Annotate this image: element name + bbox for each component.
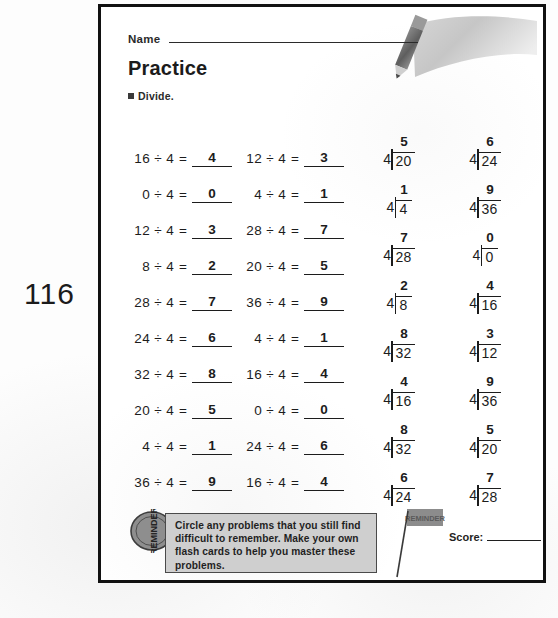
quotient-answer[interactable]: 9 (479, 375, 500, 389)
answer-blank[interactable]: 4 (192, 150, 232, 167)
divisor: 4 (472, 231, 480, 262)
dividend: 24 (391, 488, 414, 507)
worksheet-sheet: Name Practice Divide. 16 ÷ 4=40 ÷ 4=012 … (98, 4, 546, 583)
equals-sign: = (179, 331, 187, 346)
long-division-problem: 4936 (442, 375, 528, 423)
problem-column-1: 16 ÷ 4=40 ÷ 4=012 ÷ 4=38 ÷ 4=228 ÷ 4=724… (127, 140, 232, 500)
long-division-problem: 4416 (442, 279, 528, 327)
dividend: 16 (477, 296, 500, 315)
problem-expression: 36 ÷ 4 (246, 295, 286, 310)
pencil-banner-icon (391, 11, 539, 89)
problem-expression: 20 ÷ 4 (246, 259, 286, 274)
divisor: 4 (469, 471, 477, 502)
division-problem: 12 ÷ 4=3 (127, 212, 232, 248)
reminder-badge-text: REMINDER (149, 509, 159, 553)
flag-text: REMINDER (405, 514, 445, 523)
answer-blank[interactable]: 1 (304, 186, 344, 203)
quotient-answer[interactable]: 2 (397, 279, 412, 293)
answer-blank[interactable]: 0 (192, 186, 232, 203)
quotient-answer[interactable]: 6 (479, 135, 500, 149)
equals-sign: = (291, 367, 299, 382)
quotient-answer[interactable]: 3 (479, 327, 500, 341)
quotient-answer[interactable]: 5 (479, 423, 500, 437)
quotient-answer[interactable]: 5 (393, 135, 414, 149)
score-field-row[interactable]: Score: (449, 531, 541, 543)
answer-blank[interactable]: 0 (304, 402, 344, 419)
answer-blank[interactable]: 4 (304, 474, 344, 491)
long-division-problem: 4728 (356, 231, 442, 279)
problem-expression: 24 ÷ 4 (246, 439, 286, 454)
equals-sign: = (291, 259, 299, 274)
equals-sign: = (179, 475, 187, 490)
division-problem: 24 ÷ 4=6 (232, 428, 344, 464)
problem-expression: 36 ÷ 4 (134, 475, 174, 490)
dividend: 20 (477, 440, 500, 459)
quotient-answer[interactable]: 1 (397, 183, 412, 197)
answer-blank[interactable]: 5 (192, 402, 232, 419)
answer-blank[interactable]: 5 (304, 258, 344, 275)
dividend: 12 (477, 344, 500, 363)
equals-sign: = (179, 295, 187, 310)
quotient-answer[interactable]: 0 (483, 231, 498, 245)
score-write-line[interactable] (487, 540, 541, 541)
division-problem: 36 ÷ 4=9 (127, 464, 232, 500)
divisor: 4 (383, 423, 391, 454)
name-write-line[interactable] (169, 42, 418, 43)
division-problem: 16 ÷ 4=4 (232, 464, 344, 500)
quotient-answer[interactable]: 4 (393, 375, 414, 389)
divisor: 4 (383, 231, 391, 262)
name-field-row[interactable]: Name (128, 33, 418, 45)
divisor: 4 (383, 327, 391, 358)
problem-expression: 12 ÷ 4 (134, 223, 174, 238)
answer-blank[interactable]: 6 (192, 330, 232, 347)
score-label: Score: (449, 531, 483, 543)
long-division-problem: 400 (442, 231, 528, 279)
answer-blank[interactable]: 3 (304, 150, 344, 167)
equals-sign: = (291, 295, 299, 310)
division-problem: 4 ÷ 4=1 (232, 320, 344, 356)
reminder-flag-icon: REMINDER (391, 507, 445, 581)
answer-blank[interactable]: 8 (192, 366, 232, 383)
answer-blank[interactable]: 1 (192, 438, 232, 455)
page-number: 116 (24, 277, 75, 311)
equals-sign: = (291, 475, 299, 490)
answer-blank[interactable]: 7 (192, 294, 232, 311)
problem-column-2: 12 ÷ 4=34 ÷ 4=128 ÷ 4=720 ÷ 4=536 ÷ 4=94… (232, 140, 344, 500)
division-problem: 32 ÷ 4=8 (127, 356, 232, 392)
divisor: 4 (383, 471, 391, 502)
answer-blank[interactable]: 4 (304, 366, 344, 383)
quotient-answer[interactable]: 8 (393, 327, 414, 341)
divisor: 4 (386, 183, 394, 214)
answer-blank[interactable]: 1 (304, 330, 344, 347)
problem-expression: 4 ÷ 4 (254, 331, 286, 346)
long-division-problem: 4520 (356, 135, 442, 183)
problem-expression: 0 ÷ 4 (254, 403, 286, 418)
division-problem: 36 ÷ 4=9 (232, 284, 344, 320)
quotient-answer[interactable]: 7 (393, 231, 414, 245)
quotient-answer[interactable]: 6 (393, 471, 414, 485)
answer-blank[interactable]: 2 (192, 258, 232, 275)
quotient-answer[interactable]: 9 (479, 183, 500, 197)
division-problem: 20 ÷ 4=5 (232, 248, 344, 284)
dividend: 28 (391, 248, 414, 267)
problem-column-3: 452041447284284832441648324624 (356, 135, 442, 519)
problem-expression: 32 ÷ 4 (134, 367, 174, 382)
quotient-answer[interactable]: 4 (479, 279, 500, 293)
answer-blank[interactable]: 3 (192, 222, 232, 239)
answer-blank[interactable]: 9 (304, 294, 344, 311)
dividend: 32 (391, 440, 414, 459)
dividend: 8 (395, 296, 412, 315)
dividend: 24 (477, 152, 500, 171)
answer-blank[interactable]: 6 (304, 438, 344, 455)
directions-row: Divide. (128, 90, 174, 102)
quotient-answer[interactable]: 7 (479, 471, 500, 485)
division-problem: 28 ÷ 4=7 (127, 284, 232, 320)
long-division-problem: 4416 (356, 375, 442, 423)
long-division-problem: 414 (356, 183, 442, 231)
answer-blank[interactable]: 9 (192, 474, 232, 491)
problem-expression: 12 ÷ 4 (246, 151, 286, 166)
divisor: 4 (386, 279, 394, 310)
problem-expression: 8 ÷ 4 (142, 259, 174, 274)
quotient-answer[interactable]: 8 (393, 423, 414, 437)
answer-blank[interactable]: 7 (304, 222, 344, 239)
